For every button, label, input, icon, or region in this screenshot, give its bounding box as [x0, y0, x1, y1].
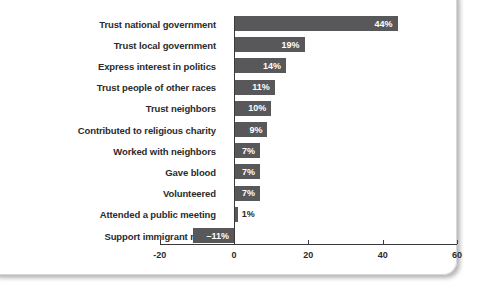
x-axis-tick — [308, 240, 309, 244]
x-axis-tick — [457, 240, 458, 244]
category-label: Gave blood — [0, 166, 216, 177]
bar[interactable]: –11% — [193, 228, 234, 243]
category-label: Trust national government — [0, 18, 216, 29]
x-axis-tick-label: 60 — [452, 250, 462, 260]
bar-row: Worked with neighbors7% — [0, 143, 484, 158]
x-axis-line — [160, 244, 457, 245]
x-axis-tick-label: 0 — [231, 250, 236, 260]
category-label: Trust neighbors — [0, 103, 216, 114]
bar-row: Trust people of other races11% — [0, 80, 484, 95]
category-label: Volunteered — [0, 188, 216, 199]
bar-value-label: 10% — [248, 103, 266, 113]
bar[interactable]: 19% — [234, 37, 305, 52]
category-label: Trust people of other races — [0, 82, 216, 93]
bar-value-label: 7% — [242, 188, 255, 198]
bar-row: Volunteered7% — [0, 186, 484, 201]
bar-value-label: 11% — [252, 82, 270, 92]
x-axis-tick — [383, 240, 384, 244]
x-axis-tick — [160, 240, 161, 244]
bar-row: Trust neighbors10% — [0, 101, 484, 116]
bar-value-label: 1% — [242, 209, 255, 219]
category-label: Contributed to religious charity — [0, 124, 216, 135]
category-label: Trust local government — [0, 39, 216, 50]
bar-value-label: –11% — [206, 231, 229, 241]
bar-row: Contributed to religious charity9% — [0, 122, 484, 137]
zero-baseline — [234, 16, 235, 244]
bar[interactable]: 7% — [234, 186, 260, 201]
bar[interactable]: 10% — [234, 101, 271, 116]
bar-row: Trust national government44% — [0, 16, 484, 31]
plot-area: Trust national government44%Trust local … — [0, 0, 484, 303]
bar[interactable]: 44% — [234, 16, 398, 31]
bar[interactable]: 9% — [234, 122, 267, 137]
bar-row: Gave blood7% — [0, 164, 484, 179]
x-axis-tick-label: 40 — [378, 250, 388, 260]
bar[interactable]: 11% — [234, 80, 275, 95]
bar[interactable]: 14% — [234, 58, 286, 73]
bar-row: Attended a public meeting1% — [0, 207, 484, 222]
x-axis-tick — [234, 240, 235, 244]
x-axis-tick-label: -20 — [153, 250, 166, 260]
bar-value-label: 7% — [242, 146, 255, 156]
category-label: Support immigrant rights — [0, 230, 216, 241]
bar-value-label: 44% — [375, 19, 393, 29]
category-label: Express interest in politics — [0, 60, 216, 71]
bar-row: Trust local government19% — [0, 37, 484, 52]
bar-value-label: 7% — [242, 167, 255, 177]
bar[interactable]: 7% — [234, 143, 260, 158]
bar-value-label: 14% — [263, 61, 281, 71]
x-axis-tick-label: 20 — [303, 250, 313, 260]
category-label: Attended a public meeting — [0, 209, 216, 220]
bar[interactable]: 7% — [234, 164, 260, 179]
category-label: Worked with neighbors — [0, 145, 216, 156]
bar-chart: Trust national government44%Trust local … — [0, 0, 484, 303]
bar-value-label: 9% — [249, 125, 262, 135]
bar-row: Express interest in politics14% — [0, 58, 484, 73]
bar-value-label: 19% — [282, 40, 300, 50]
bar-row: Support immigrant rights–11% — [0, 228, 484, 243]
